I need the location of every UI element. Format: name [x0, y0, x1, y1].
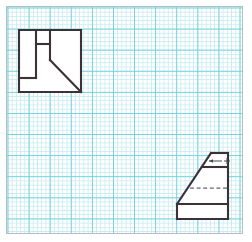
side-view-face-fill — [177, 153, 228, 219]
view-side-view[interactable] — [177, 153, 230, 219]
screenshot-canvas — [0, 0, 252, 242]
technical-drawing-layer — [0, 0, 252, 242]
view-top-view[interactable] — [19, 30, 81, 92]
